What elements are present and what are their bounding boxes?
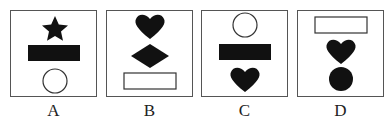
heart-icon — [230, 68, 259, 92]
filled-circle — [329, 67, 353, 91]
option-c-panel[interactable] — [201, 10, 288, 97]
outline-rectangle — [124, 73, 176, 89]
option-b-panel[interactable] — [106, 10, 193, 97]
option-c-label: C — [201, 101, 288, 121]
heart-icon — [326, 40, 355, 64]
outline-rectangle — [315, 17, 367, 33]
option-d-label: D — [297, 101, 384, 121]
outline-circle — [233, 13, 257, 37]
option-a-label: A — [10, 101, 97, 121]
heart-icon — [135, 15, 164, 39]
filled-rectangle — [28, 45, 80, 61]
diamond-icon — [131, 44, 169, 68]
option-d-panel[interactable] — [297, 10, 384, 97]
star-icon — [42, 16, 68, 41]
option-b-label: B — [106, 101, 193, 121]
option-a-panel[interactable] — [10, 10, 97, 97]
outline-circle — [43, 69, 67, 93]
filled-rectangle — [219, 44, 271, 60]
